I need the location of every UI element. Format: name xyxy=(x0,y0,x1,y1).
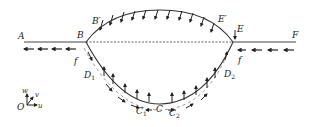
label-f-left: f xyxy=(73,56,79,66)
label-E: E xyxy=(236,24,244,34)
axis-v xyxy=(27,97,33,105)
label-C: C xyxy=(156,104,163,114)
upper-arc xyxy=(86,10,233,42)
friction-arrows-lower xyxy=(88,52,227,110)
label-D1: D1 xyxy=(83,70,95,81)
upward-pressure-arrows xyxy=(104,67,215,102)
coordinate-axes: O w v u xyxy=(17,87,43,112)
label-B: B xyxy=(76,30,84,40)
label-E-prime: E′ xyxy=(217,14,227,24)
label-C1: C1 xyxy=(136,106,147,117)
label-axis-u: u xyxy=(38,102,43,110)
label-D2: D2 xyxy=(223,69,235,80)
label-C2: C2 xyxy=(169,108,180,119)
label-origin: O xyxy=(17,102,25,112)
lower-arc-inner xyxy=(84,48,228,110)
label-A: A xyxy=(17,31,25,41)
label-axis-w: w xyxy=(22,87,28,95)
label-B-prime: B′ xyxy=(91,16,101,26)
deformation-diagram: A B B′ E′ E F f f D1 D2 C1 C C2 O w v u xyxy=(0,0,315,127)
label-f-right: f xyxy=(237,55,243,65)
label-axis-v: v xyxy=(35,91,39,99)
label-F: F xyxy=(291,30,299,40)
lower-arc xyxy=(86,42,233,104)
